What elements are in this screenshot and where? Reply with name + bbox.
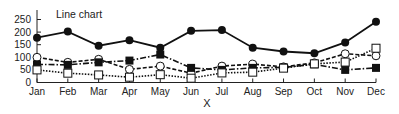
x-axis-label: X <box>203 97 211 109</box>
x-tick-label: May <box>151 86 170 97</box>
x-tick-label: Nov <box>336 86 354 97</box>
data-point-marker <box>156 71 164 79</box>
data-point-marker <box>341 58 349 66</box>
y-tick-label: 250 <box>14 14 31 25</box>
data-point-marker <box>187 27 195 35</box>
data-point-marker <box>125 65 133 73</box>
x-tick-label: Feb <box>59 86 77 97</box>
data-point-marker <box>187 74 195 82</box>
data-point-marker <box>249 68 257 76</box>
data-point-marker <box>64 28 72 36</box>
series-1 <box>33 18 380 58</box>
data-point-marker <box>341 50 349 58</box>
data-point-marker <box>310 60 318 68</box>
data-point-marker <box>372 64 380 72</box>
chart-title: Line chart <box>56 8 102 20</box>
data-point-marker <box>372 44 380 52</box>
x-tick-label: Apr <box>122 86 138 97</box>
y-tick-label: 150 <box>14 39 31 50</box>
data-point-marker <box>372 52 380 60</box>
x-tick-label: Mar <box>90 86 108 97</box>
data-point-marker <box>95 71 103 79</box>
series-group <box>33 18 380 82</box>
data-point-marker <box>280 48 288 56</box>
data-point-marker <box>156 44 164 52</box>
y-tick-label: 100 <box>14 52 31 63</box>
x-tick-label: Jan <box>29 86 45 97</box>
data-point-marker <box>64 61 72 69</box>
data-point-marker <box>187 64 195 72</box>
data-point-marker <box>218 26 226 34</box>
data-point-marker <box>341 66 349 74</box>
data-point-marker <box>125 36 133 44</box>
data-point-marker <box>95 42 103 50</box>
x-tick-label: Dec <box>367 86 385 97</box>
data-point-marker <box>156 62 164 70</box>
x-tick-label: Jul <box>216 86 229 97</box>
x-tick-label: Jun <box>183 86 199 97</box>
data-point-marker <box>341 38 349 46</box>
series-line <box>37 55 376 70</box>
line-chart: 050100150200250JanFebMarAprMayJunJulAugS… <box>0 0 399 114</box>
data-point-marker <box>310 49 318 57</box>
data-point-marker <box>95 58 103 66</box>
data-point-marker <box>249 44 257 52</box>
data-point-marker <box>372 18 380 26</box>
data-point-marker <box>64 69 72 77</box>
axes: 050100150200250JanFebMarAprMayJunJulAugS… <box>14 10 385 97</box>
data-point-marker <box>280 64 288 72</box>
data-point-marker <box>33 53 41 61</box>
y-tick-label: 50 <box>20 64 32 75</box>
x-tick-label: Oct <box>307 86 323 97</box>
series-3 <box>33 51 380 74</box>
x-tick-label: Aug <box>244 86 262 97</box>
data-point-marker <box>33 34 41 42</box>
x-tick-label: Sep <box>275 86 293 97</box>
data-point-marker <box>125 57 133 65</box>
data-point-marker <box>156 51 164 59</box>
y-tick-label: 200 <box>14 27 31 38</box>
data-point-marker <box>125 73 133 81</box>
data-point-marker <box>218 69 226 77</box>
series-line <box>37 22 376 54</box>
data-point-marker <box>33 66 41 74</box>
